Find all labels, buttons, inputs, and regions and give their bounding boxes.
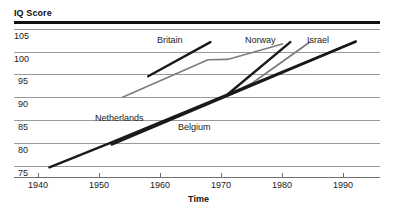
chart-container: IQ Score 7580859095100105 19401950196019… bbox=[0, 0, 397, 213]
series-line-britain bbox=[148, 42, 210, 76]
series-line-netherlands bbox=[123, 44, 283, 97]
series-label-israel: Israel bbox=[307, 35, 329, 45]
x-axis-line bbox=[14, 177, 380, 178]
x-tick-label-1980: 1980 bbox=[262, 180, 302, 190]
x-tick-1960 bbox=[160, 173, 161, 177]
x-tick-label-1970: 1970 bbox=[201, 180, 241, 190]
x-tick-label-1940: 1940 bbox=[18, 180, 58, 190]
x-tick-1980 bbox=[282, 173, 283, 177]
series-label-britain: Britain bbox=[157, 35, 183, 45]
x-tick-1990 bbox=[343, 173, 344, 177]
x-tick-label-1950: 1950 bbox=[79, 180, 119, 190]
x-axis-title: Time bbox=[0, 194, 397, 204]
series-line-israel bbox=[226, 42, 310, 96]
x-tick-label-1960: 1960 bbox=[140, 180, 180, 190]
x-tick-label-1990: 1990 bbox=[323, 180, 363, 190]
series-label-netherlands: Netherlands bbox=[95, 113, 144, 123]
x-tick-1940 bbox=[38, 173, 39, 177]
series-label-belgium: Belgium bbox=[178, 122, 211, 132]
series-label-norway: Norway bbox=[245, 35, 276, 45]
x-tick-1970 bbox=[221, 173, 222, 177]
x-tick-1950 bbox=[99, 173, 100, 177]
